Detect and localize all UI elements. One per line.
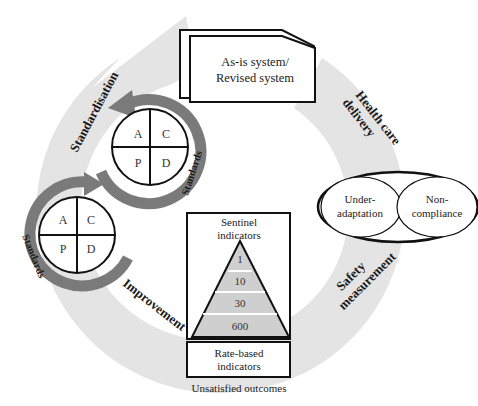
pyramid-level-4: 600 — [232, 320, 249, 332]
pdca-upper-plan: P — [135, 156, 142, 170]
pdca-lower-check: C — [87, 213, 95, 227]
pyramid-level-1: 1 — [237, 253, 243, 265]
under-adaptation-line2: adaptation — [337, 207, 383, 219]
pdca-upper-act: A — [134, 127, 143, 141]
pdca-lower-act: A — [59, 213, 68, 227]
non-compliance-line1: Non- — [426, 193, 449, 205]
pdca-lower-plan: P — [60, 242, 67, 256]
under-adaptation-line1: Under- — [345, 193, 376, 205]
pdca-lower-do: D — [87, 242, 96, 256]
non-compliance-line2: compliance — [412, 207, 463, 219]
pyramid-level-2: 10 — [235, 275, 247, 287]
rate-based-line1: Rate-based — [215, 347, 264, 359]
pdca-upper-check: C — [162, 127, 170, 141]
pyramid-level-3: 30 — [235, 297, 247, 309]
system-box: As-is system/ Revised system — [180, 30, 315, 102]
pdca-upper-do: D — [162, 156, 171, 170]
rate-based-line2: indicators — [217, 360, 260, 372]
deviation-ellipse: Under- adaptation Non- compliance — [318, 172, 478, 242]
indicators-panel: Sentinel indicators 1 10 30 600 Rate-bas… — [187, 213, 290, 394]
sentinel-line1: Sentinel — [221, 216, 257, 228]
system-box-line2: Revised system — [216, 71, 294, 85]
system-box-line1: As-is system/ — [221, 55, 289, 69]
pdca-upper: A C P D Standards — [101, 90, 204, 204]
unsatisfied-outcomes-caption: Unsatisfied outcomes — [191, 382, 286, 394]
sentinel-line2: indicators — [217, 229, 260, 241]
diagram-canvas: Standardisation Health care delivery Saf… — [0, 0, 478, 406]
